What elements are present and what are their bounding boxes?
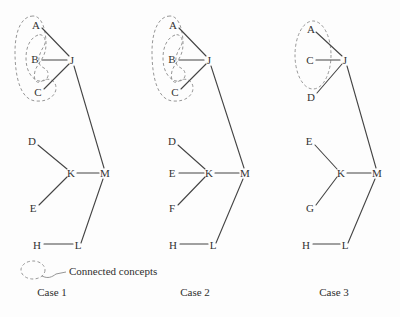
node-case1-L: L — [75, 239, 82, 251]
legend-leader-line — [42, 272, 66, 277]
edge-case2-D-K — [178, 145, 205, 169]
node-case1-H: H — [33, 239, 41, 251]
case-1-group: A B C J D E K M H L — [15, 16, 110, 251]
caption-case-1: Case 1 — [37, 286, 67, 298]
edge-case2-J-M — [211, 66, 244, 168]
edge-case3-G-K — [316, 177, 337, 205]
caption-case-2: Case 2 — [180, 286, 210, 298]
node-case2-A: A — [169, 19, 177, 31]
edge-case3-E-K — [315, 145, 337, 169]
legend-label: Connected concepts — [69, 265, 157, 277]
node-case2-M: M — [240, 167, 250, 179]
node-case1-A: A — [32, 19, 40, 31]
case-2-group: A B C J D E F K M H L — [152, 16, 250, 251]
case-3-group: A C D J E G K M H L — [295, 21, 382, 251]
node-case2-B: B — [168, 53, 175, 65]
node-case1-E: E — [30, 202, 37, 214]
edge-case3-A-J — [316, 32, 342, 56]
node-case3-L: L — [342, 239, 349, 251]
node-case3-E: E — [306, 135, 313, 147]
node-case2-C: C — [171, 86, 178, 98]
node-case2-K: K — [205, 167, 213, 179]
edge-case1-M-L — [81, 179, 103, 243]
node-case3-D: D — [307, 91, 315, 103]
node-case3-G: G — [306, 202, 314, 214]
node-case1-B: B — [31, 53, 38, 65]
caption-case-3: Case 3 — [319, 286, 349, 298]
node-case1-K: K — [67, 167, 75, 179]
edge-case2-M-L — [216, 179, 243, 243]
node-case2-H: H — [169, 239, 177, 251]
node-case1-D: D — [28, 135, 36, 147]
node-case3-M: M — [372, 167, 382, 179]
edge-case1-E-K — [39, 177, 67, 205]
diagram-page: A B C J D E K M H L A B C — [0, 0, 400, 317]
node-case2-L: L — [210, 239, 217, 251]
edge-case3-M-L — [348, 179, 375, 243]
legend: Connected concepts — [21, 261, 157, 279]
edge-case2-F-K — [178, 177, 205, 205]
node-case3-K: K — [337, 167, 345, 179]
node-case2-E: E — [169, 167, 176, 179]
node-case2-F: F — [169, 202, 175, 214]
node-case2-J: J — [207, 54, 212, 66]
node-case1-C: C — [34, 86, 41, 98]
edge-case1-J-M — [74, 66, 104, 168]
node-case3-H: H — [302, 239, 310, 251]
legend-dashed-ellipse-icon — [21, 261, 45, 279]
node-case3-A: A — [307, 23, 315, 35]
node-case1-J: J — [70, 54, 75, 66]
node-case1-M: M — [100, 167, 110, 179]
node-case3-J: J — [343, 54, 348, 66]
concept-graph-diagram: A B C J D E K M H L A B C — [0, 0, 400, 317]
node-case3-C: C — [306, 54, 313, 66]
edge-case3-J-M — [347, 66, 376, 168]
edge-case1-D-K — [38, 145, 67, 169]
node-case2-D: D — [168, 135, 176, 147]
